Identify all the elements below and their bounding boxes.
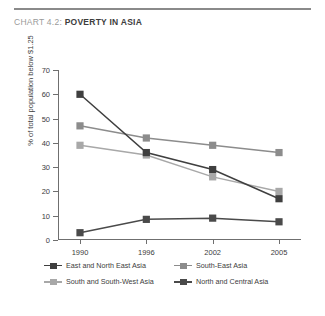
y-axis-tick-label: 40 — [42, 138, 50, 147]
legend-marker-icon — [44, 262, 62, 269]
data-point-marker — [143, 216, 150, 223]
chart-number-label: CHART 4.2: — [14, 17, 62, 27]
y-axis-tick-label: 50 — [42, 114, 50, 123]
data-point-marker — [275, 218, 282, 225]
x-axis-tick-label: 1990 — [72, 248, 89, 257]
x-axis-tick-label: 2005 — [271, 248, 288, 257]
legend-item-north-and-central-asia[interactable]: North and Central Asia — [174, 278, 304, 285]
x-axis-tick-label: 1996 — [138, 248, 155, 257]
y-axis-tick-label: 0 — [46, 236, 50, 245]
legend-row-2: South and South-West Asia North and Cent… — [44, 278, 314, 285]
legend-item-south-east-asia[interactable]: South-East Asia — [174, 262, 304, 269]
chart-legend: East and North East Asia South-East Asia… — [44, 262, 314, 294]
series-line — [80, 94, 279, 198]
legend-item-east-and-north-east-asia[interactable]: East and North East Asia — [44, 262, 174, 269]
data-point-marker — [76, 91, 83, 98]
data-point-marker — [143, 149, 150, 156]
data-point-marker — [209, 215, 216, 222]
data-point-marker — [209, 166, 216, 173]
header-rule — [14, 8, 311, 10]
x-axis-tick-label: 2002 — [204, 248, 221, 257]
data-point-marker — [275, 188, 282, 195]
legend-item-south-and-south-west-asia[interactable]: South and South-West Asia — [44, 278, 174, 285]
chart-figure: CHART 4.2: POVERTY IN ASIA % of total po… — [0, 0, 325, 316]
data-point-marker — [76, 122, 83, 129]
data-point-marker — [209, 142, 216, 149]
legend-label: East and North East Asia — [66, 262, 146, 269]
data-point-marker — [76, 229, 83, 236]
series-line — [80, 145, 279, 191]
series-lines — [58, 70, 301, 240]
legend-label: North and Central Asia — [196, 278, 268, 285]
y-axis-tick-label: 10 — [42, 211, 50, 220]
series-line — [80, 126, 279, 153]
y-axis-tick-label: 60 — [42, 90, 50, 99]
y-axis-title: % of total population below $1.25 — [26, 1, 35, 181]
data-point-marker — [275, 149, 282, 156]
legend-label: South and South-West Asia — [66, 278, 154, 285]
chart-name-label: POVERTY IN ASIA — [65, 17, 142, 27]
legend-label: South-East Asia — [196, 262, 247, 269]
y-axis-tick-label: 70 — [42, 66, 50, 75]
series-line — [80, 218, 279, 233]
data-point-marker — [76, 142, 83, 149]
legend-row-1: East and North East Asia South-East Asia — [44, 262, 314, 269]
y-axis-tick-label: 20 — [42, 187, 50, 196]
legend-marker-icon — [44, 278, 62, 285]
legend-marker-icon — [174, 262, 192, 269]
data-point-marker — [143, 134, 150, 141]
legend-marker-icon — [174, 278, 192, 285]
y-axis-tick — [53, 240, 58, 241]
plot-area: 010203040506070 1990199620022005 — [58, 70, 301, 240]
data-point-marker — [275, 195, 282, 202]
y-axis-tick-label: 30 — [42, 163, 50, 172]
data-point-marker — [209, 173, 216, 180]
